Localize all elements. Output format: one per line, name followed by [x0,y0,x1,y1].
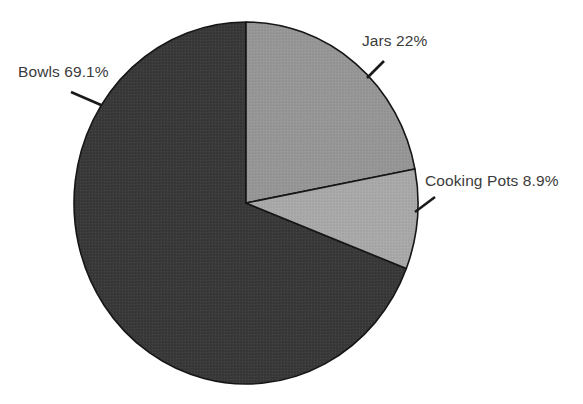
leader-line-bowls [71,92,101,105]
pie-label-cooking-pots: Cooking Pots 8.9% [425,173,559,189]
pie-label-jars: Jars 22% [362,33,427,49]
pie-chart: Bowls 69.1% Jars 22% Cooking Pots 8.9% [0,0,583,404]
pie-chart-canvas [0,0,583,404]
pie-label-bowls: Bowls 69.1% [18,64,109,80]
leader-line-jars [367,61,384,78]
